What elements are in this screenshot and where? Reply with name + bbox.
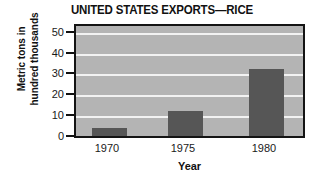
y-tick-label-40: 40 (40, 47, 64, 59)
y-tick-mark-10 (66, 114, 74, 116)
y-tick-label-20: 20 (40, 88, 64, 100)
bar-1975 (168, 111, 203, 138)
y-tick-label-30: 30 (40, 67, 64, 79)
y-tick-mark-20 (66, 93, 74, 95)
x-axis-tick-labels: 1970 1975 1980 (74, 142, 305, 158)
y-tick-label-10: 10 (40, 109, 64, 121)
gridline-50 (76, 33, 303, 35)
y-tick-mark-0 (66, 135, 74, 137)
x-tick-label-1975: 1975 (153, 142, 213, 154)
x-tick-label-1980: 1980 (234, 142, 294, 154)
y-tick-mark-40 (66, 52, 74, 54)
y-tick-label-50: 50 (40, 26, 64, 38)
bar-1970 (92, 128, 127, 137)
gridline-0 (76, 137, 303, 139)
y-tick-mark-30 (66, 72, 74, 74)
gridline-40 (76, 54, 303, 56)
y-axis-title-line-1: Metric tons in (15, 27, 28, 92)
plot-area (74, 24, 305, 138)
bar-chart-figure: UNITED STATES EXPORTS—RICE Metric tons i… (0, 0, 324, 194)
x-axis-title: Year (80, 160, 299, 172)
bar-1980 (249, 69, 284, 137)
y-axis-tick-labels: 50 40 30 20 10 0 (40, 24, 64, 136)
y-tick-label-0: 0 (40, 130, 64, 142)
x-tick-label-1970: 1970 (77, 142, 137, 154)
y-tick-mark-50 (66, 31, 74, 33)
chart-title: UNITED STATES EXPORTS—RICE (13, 3, 311, 17)
